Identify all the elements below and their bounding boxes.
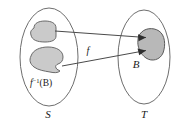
set-function-diagram: f f−1(B) B S T (0, 0, 185, 123)
codomain-label-t: T (141, 108, 148, 120)
function-label-f: f (87, 45, 91, 56)
preimage-label-superscript: −1 (33, 77, 40, 84)
preimage-label-argument: (B) (40, 78, 53, 89)
diagram-canvas: f f−1(B) B S T (0, 0, 185, 123)
domain-label-s: S (45, 108, 51, 120)
image-label-b: B (133, 58, 140, 70)
